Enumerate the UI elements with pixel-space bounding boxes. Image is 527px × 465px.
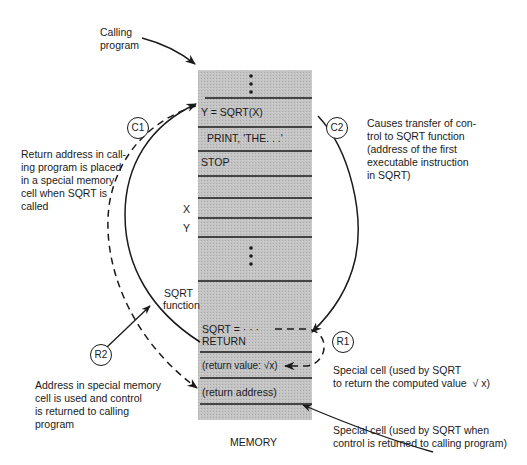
cell-sqrt-assign: SQRT = · · · <box>202 323 259 335</box>
return-cell-annotation: Special cell (used by SQRT when control … <box>333 424 507 450</box>
cell-return: RETURN <box>202 335 246 347</box>
cell-print: PRINT, 'THE. . .' <box>207 132 283 144</box>
calling-program-label: Calling program <box>100 26 139 52</box>
marker-c2: C2 <box>326 117 348 139</box>
calling-program-arrow <box>142 38 195 64</box>
cell-return-address: (return address) <box>202 386 277 398</box>
marker-c1: C1 <box>127 117 149 139</box>
cell-stop: STOP <box>201 156 229 168</box>
cell-y-sqrt: Y = SQRT(X) <box>201 106 263 118</box>
r1-annotation: Special cell (used by SQRT to return the… <box>333 364 490 390</box>
c2-call-arc <box>312 116 358 332</box>
variable-x-label: X <box>183 203 190 215</box>
c1-annotation: Return address in call- ing program is p… <box>21 148 126 213</box>
r2-pointer-arrow <box>106 306 150 348</box>
variable-y-label: Y <box>183 222 190 234</box>
sqrt-function-label: SQRT function <box>163 287 193 311</box>
r2-annotation: Address in special memory cell is used a… <box>35 379 161 431</box>
c2-annotation: Causes transfer of con- trol to SQRT fun… <box>367 117 476 182</box>
memory-caption: MEMORY <box>230 436 277 449</box>
cell-return-value: (return value: √x) <box>202 360 278 372</box>
marker-r2: R2 <box>90 344 112 366</box>
marker-r1: R1 <box>332 331 354 353</box>
